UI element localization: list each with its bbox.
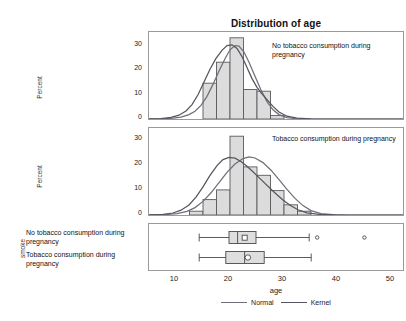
y-tick-top-20: 20 <box>122 64 142 71</box>
legend-label-kernel: Kernel <box>311 299 331 306</box>
panel-note-no-tobacco: No tobacco consumption during pregnancy <box>272 41 388 60</box>
y-axis-label-bottom: Percent <box>36 157 43 197</box>
x-tick-50: 50 <box>380 275 400 283</box>
chart-figure: Distribution of age Percent Percent smok… <box>0 0 406 321</box>
x-tick-10: 10 <box>164 275 184 283</box>
y-tick-bottom-0: 0 <box>122 209 142 216</box>
boxplot-row-tobacco <box>199 252 311 264</box>
legend-label-normal: Normal <box>251 299 274 306</box>
y-tick-bottom-30: 30 <box>122 134 142 141</box>
y-axis-label-top: Percent <box>36 68 43 108</box>
boxplot-label-tobacco: Tobacco consumption during pregnancy <box>26 250 148 268</box>
legend: Normal Kernel <box>148 299 404 306</box>
boxplot-outliers-no-tobacco <box>316 236 367 239</box>
y-tick-top-0: 0 <box>122 113 142 120</box>
boxplot-mean-marker-tobacco <box>245 255 250 260</box>
legend-item-kernel: Kernel <box>281 299 331 306</box>
y-tick-bottom-20: 20 <box>122 159 142 166</box>
y-tick-top-10: 10 <box>122 89 142 96</box>
legend-item-normal: Normal <box>221 299 274 306</box>
panel-note-tobacco: Tobacco consumption during pregnancy <box>272 134 400 143</box>
x-tick-40: 40 <box>326 275 346 283</box>
histogram-bars <box>190 136 312 215</box>
group-axis-label: smoke <box>19 229 26 269</box>
boxplot-mean-marker-no-tobacco <box>242 235 247 240</box>
kernel-line-icon <box>281 302 307 303</box>
y-tick-bottom-10: 10 <box>122 184 142 191</box>
x-tick-30: 30 <box>272 275 292 283</box>
boxplot-plot <box>149 224 403 270</box>
boxplot-row-no-tobacco <box>199 232 309 244</box>
normal-line-icon <box>221 302 247 303</box>
x-tick-20: 20 <box>218 275 238 283</box>
boxplot-panel <box>148 223 404 271</box>
x-axis-label: age <box>148 286 404 295</box>
y-tick-top-30: 30 <box>122 40 142 47</box>
boxplot-label-no-tobacco: No tobacco consumption during pregnancy <box>26 228 144 246</box>
page-title: Distribution of age <box>148 18 404 29</box>
